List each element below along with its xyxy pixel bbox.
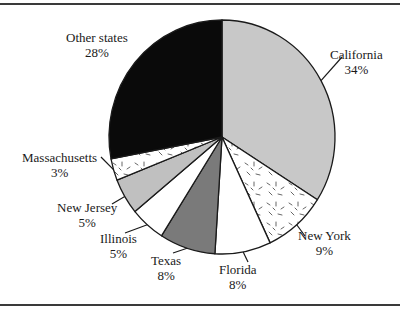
label-massachusetts: Massachusetts 3% [22, 150, 97, 180]
label-massachusetts-name: Massachusetts [22, 150, 97, 165]
label-california-pct: 34% [330, 62, 383, 77]
label-texas: Texas 8% [151, 253, 181, 283]
leader-line-florida [243, 252, 248, 262]
label-new-york-pct: 9% [298, 243, 351, 258]
label-california: California 34% [330, 47, 383, 77]
label-florida-pct: 8% [219, 277, 257, 292]
label-other-states: Other states 28% [66, 30, 128, 60]
label-new-york: New York 9% [298, 228, 351, 258]
label-texas-pct: 8% [151, 268, 181, 283]
label-florida-name: Florida [219, 262, 257, 277]
label-new-jersey-pct: 5% [57, 215, 117, 230]
label-illinois-pct: 5% [100, 246, 137, 261]
label-california-name: California [330, 47, 383, 62]
label-texas-name: Texas [151, 253, 181, 268]
label-new-jersey: New Jersey 5% [57, 200, 117, 230]
label-massachusetts-pct: 3% [22, 165, 97, 180]
label-other-states-pct: 28% [66, 45, 128, 60]
label-new-york-name: New York [298, 228, 351, 243]
label-florida: Florida 8% [219, 262, 257, 292]
label-other-states-name: Other states [66, 30, 128, 45]
label-new-jersey-name: New Jersey [57, 200, 117, 215]
pie-slices [109, 20, 335, 254]
label-illinois: Illinois 5% [100, 231, 137, 261]
label-illinois-name: Illinois [100, 231, 137, 246]
